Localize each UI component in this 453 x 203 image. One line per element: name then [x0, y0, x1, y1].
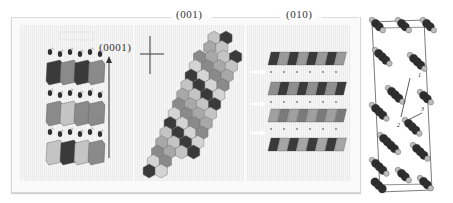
atom [422, 66, 428, 72]
path-label: 1 [418, 72, 421, 78]
atom [395, 149, 401, 155]
path-label: 3 [420, 106, 424, 112]
ball-and-stick-model: 123 [0, 0, 453, 203]
atom [384, 116, 390, 122]
atom [384, 171, 390, 177]
migration-path [404, 113, 422, 122]
atom [380, 27, 386, 33]
atom [417, 131, 423, 137]
atom [425, 156, 431, 162]
atom [428, 99, 434, 105]
atom [406, 27, 412, 33]
atom [406, 177, 412, 183]
atom [428, 185, 434, 191]
atom [431, 27, 437, 33]
atom [387, 61, 393, 67]
path-label: 2 [397, 122, 400, 128]
atom [378, 185, 386, 193]
